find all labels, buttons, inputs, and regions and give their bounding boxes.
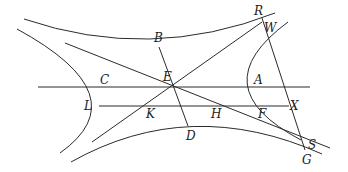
point-label-F: F <box>257 107 267 121</box>
upper-branch-curve <box>24 13 275 39</box>
point-label-B: B <box>153 31 163 45</box>
lower-branch-curve <box>71 126 322 162</box>
point-labels: RWBCEALKHFXDSG <box>83 4 316 167</box>
point-label-L: L <box>83 99 92 113</box>
hyperbola-diagram: RWBCEALKHFXDSG <box>0 0 348 172</box>
point-label-W: W <box>264 21 278 35</box>
point-label-S: S <box>308 138 316 152</box>
point-label-C: C <box>100 73 109 87</box>
point-label-G: G <box>302 153 312 167</box>
point-label-E: E <box>162 70 172 84</box>
left-branch-curve <box>17 29 92 153</box>
point-label-A: A <box>253 73 263 87</box>
asymptote-1-line <box>65 43 330 148</box>
point-label-K: K <box>145 107 156 121</box>
construction-lines <box>38 18 330 150</box>
point-label-D: D <box>185 129 196 143</box>
asymptote-2-line <box>92 22 262 142</box>
point-label-H: H <box>210 107 222 121</box>
point-label-R: R <box>253 4 263 18</box>
point-label-X: X <box>289 99 299 113</box>
